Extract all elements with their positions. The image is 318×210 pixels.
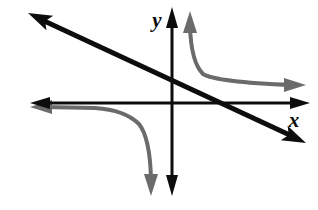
curve-upper-right-arrowhead-up (183, 11, 197, 33)
curve-lower-left-arrowhead-down (144, 174, 158, 196)
y-axis-arrowhead-up (166, 7, 178, 28)
curve-upper-right-branch (183, 11, 306, 92)
coordinate-plane-svg: y x (0, 0, 318, 210)
x-axis-label: x (288, 108, 300, 132)
y-axis-label: y (149, 8, 162, 32)
curve-lower-left-branch (30, 100, 158, 196)
curve-lower-left-path (44, 107, 151, 179)
curve-upper-right-arrowhead-right (284, 78, 306, 92)
y-axis-arrowhead-down (166, 175, 178, 196)
linear-function-arrowhead-upper-left (25, 6, 54, 31)
linear-function-segment (40, 19, 294, 137)
graph-figure: y x (0, 0, 318, 210)
curve-upper-right-path (190, 26, 292, 85)
